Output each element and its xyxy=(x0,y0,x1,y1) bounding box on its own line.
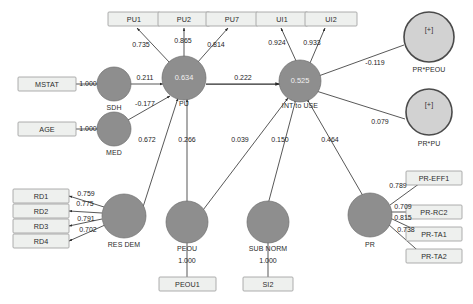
coef-age-to-med: 1.000 xyxy=(79,125,97,132)
coef-mstat-to-sdh: 1.000 xyxy=(79,80,97,87)
latent-sdh[interactable]: SDH xyxy=(97,67,131,111)
svg-text:RES DEM: RES DEM xyxy=(108,241,141,248)
latent-pr[interactable]: PR xyxy=(348,193,392,248)
coef-peou-to-pu: 0.266 xyxy=(178,136,196,143)
svg-text:PU7: PU7 xyxy=(225,15,239,24)
coef-pu-to-pu2: 0.865 xyxy=(174,37,192,44)
svg-text:MSTAT: MSTAT xyxy=(35,80,59,89)
svg-text:PR-TA2: PR-TA2 xyxy=(421,252,447,261)
coef-peou-to-int: 0.039 xyxy=(231,136,249,143)
indicator-pr-ta2[interactable]: PR-TA2 xyxy=(406,249,462,263)
latent-pu[interactable]: 0.634 PU xyxy=(162,56,206,107)
moderator-pr-x-pu[interactable]: [+] PR*PU xyxy=(406,89,452,147)
coef-int-to-ui2: 0.933 xyxy=(303,39,321,46)
latent-int-to-use[interactable]: 0.525 INT to USE xyxy=(279,60,321,109)
coef-pr-to-prrc2: 0.709 xyxy=(394,203,412,210)
svg-text:PEOU: PEOU xyxy=(177,245,197,252)
path-diagram-canvas: PU1 PU2 PU7 UI1 UI2 MSTAT AGE RD xyxy=(0,0,473,304)
svg-text:PR-TA1: PR-TA1 xyxy=(421,230,447,239)
coef-pu-to-pu7: 0.814 xyxy=(207,41,225,48)
indicator-pu1[interactable]: PU1 xyxy=(108,12,160,26)
indicator-rd1[interactable]: RD1 xyxy=(13,189,69,203)
svg-text:0.634: 0.634 xyxy=(175,73,194,82)
coef-resdem-to-rd2: 0.775 xyxy=(76,200,94,207)
svg-text:[+]: [+] xyxy=(425,100,433,109)
indicator-rd4[interactable]: RD4 xyxy=(13,234,69,248)
edge-peou-to-int xyxy=(200,98,288,214)
indicator-mstat[interactable]: MSTAT xyxy=(18,77,76,91)
coef-resdem-to-pu: 0.672 xyxy=(138,136,156,143)
svg-text:PR-EFF1: PR-EFF1 xyxy=(419,174,450,183)
coef-subnorm-to-si2: 1.000 xyxy=(259,257,277,264)
latent-sub-norm[interactable]: SUB NORM xyxy=(247,201,289,252)
sem-path-diagram: PU1 PU2 PU7 UI1 UI2 MSTAT AGE RD xyxy=(0,0,473,304)
svg-text:AGE: AGE xyxy=(39,125,55,134)
svg-text:RD3: RD3 xyxy=(34,222,49,231)
svg-text:RD1: RD1 xyxy=(34,192,49,201)
svg-text:SUB NORM: SUB NORM xyxy=(249,245,288,252)
coef-peou-to-peou1: 1.000 xyxy=(178,257,196,264)
indicator-pr-rc2[interactable]: PR-RC2 xyxy=(406,205,462,219)
svg-text:SDH: SDH xyxy=(106,104,121,111)
coef-resdem-to-rd4: 0.702 xyxy=(79,226,97,233)
edge-prpeou-to-int xyxy=(313,45,404,78)
svg-text:[+]: [+] xyxy=(425,25,433,34)
moderator-pr-x-peou[interactable]: [+] PR*PEOU xyxy=(404,12,454,73)
svg-text:INT to USE: INT to USE xyxy=(282,102,319,109)
svg-text:PU: PU xyxy=(179,100,189,107)
svg-text:PEOU1: PEOU1 xyxy=(175,280,200,289)
coef-resdem-to-rd3: 0.791 xyxy=(77,215,95,222)
edge-resdem-to-pu xyxy=(143,98,178,207)
edge-pr-to-int xyxy=(307,99,370,208)
indicator-si2[interactable]: SI2 xyxy=(243,277,293,291)
coef-pr-to-prta2: 0.738 xyxy=(397,226,415,233)
latent-res-dem[interactable]: RES DEM xyxy=(102,194,146,248)
svg-text:PR-RC2: PR-RC2 xyxy=(420,208,447,217)
svg-text:PU1: PU1 xyxy=(127,15,141,24)
svg-text:RD4: RD4 xyxy=(34,237,49,246)
indicator-pu7[interactable]: PU7 xyxy=(206,12,258,26)
latent-med[interactable]: MED xyxy=(97,112,131,156)
indicator-rd3[interactable]: RD3 xyxy=(13,219,69,233)
coef-prpu-to-int: 0.079 xyxy=(371,118,389,125)
coef-med-to-pu: -0.177 xyxy=(135,100,155,107)
coef-int-to-ui1: 0.924 xyxy=(268,39,286,46)
indicator-pr-eff1[interactable]: PR-EFF1 xyxy=(406,171,462,185)
coef-resdem-to-rd1: 0.759 xyxy=(77,190,95,197)
svg-text:MED: MED xyxy=(106,149,122,156)
indicator-pu2[interactable]: PU2 xyxy=(158,12,210,26)
latent-peou[interactable]: PEOU xyxy=(166,201,208,252)
indicator-age[interactable]: AGE xyxy=(18,122,76,136)
svg-text:UI1: UI1 xyxy=(276,15,288,24)
indicator-ui1[interactable]: UI1 xyxy=(256,12,308,26)
coef-pu-to-int: 0.222 xyxy=(234,74,252,81)
svg-text:PU2: PU2 xyxy=(177,15,191,24)
coef-pr-to-preff1: 0.789 xyxy=(389,182,407,189)
indicator-peou1[interactable]: PEOU1 xyxy=(159,277,216,291)
indicator-ui2[interactable]: UI2 xyxy=(305,12,357,26)
svg-text:RD2: RD2 xyxy=(34,207,49,216)
coef-pu-to-pu1: 0.735 xyxy=(132,41,150,48)
coef-prpeou-to-int: -0.119 xyxy=(365,59,384,66)
edge-prpu-to-int xyxy=(313,90,405,119)
svg-text:0.525: 0.525 xyxy=(291,76,310,85)
coef-pr-to-int: 0.464 xyxy=(321,136,339,143)
svg-text:PR: PR xyxy=(365,241,375,248)
indicator-rd2[interactable]: RD2 xyxy=(13,204,69,218)
coef-subnorm-to-int: 0.150 xyxy=(271,136,289,143)
svg-text:UI2: UI2 xyxy=(325,15,337,24)
coef-sdh-to-pu: 0.211 xyxy=(137,74,154,81)
svg-text:PR*PEOU: PR*PEOU xyxy=(413,66,446,73)
coef-pr-to-prta1: 0.815 xyxy=(394,214,412,221)
edge-resdem-to-rd2 xyxy=(69,211,102,213)
svg-text:SI2: SI2 xyxy=(262,280,273,289)
svg-text:PR*PU: PR*PU xyxy=(418,140,441,147)
edge-subnorm-to-int xyxy=(267,99,296,208)
